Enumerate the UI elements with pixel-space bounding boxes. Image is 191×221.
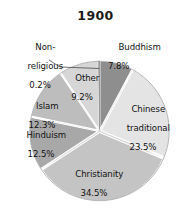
slice-value-chinese-traditional: 23.5% xyxy=(112,143,174,153)
slice-value-buddhism: 7.8% xyxy=(108,62,170,72)
slice-label-buddhism-text: Buddhism xyxy=(119,42,161,52)
slice-label-islam-text: Islam xyxy=(36,101,59,111)
slice-label-christianity-text: Christianity xyxy=(75,169,123,179)
slice-label-hinduism-text: Hinduism xyxy=(26,130,66,140)
pie-chart: 1900 Non- religious 0.2% Buddhism 7.8% O… xyxy=(0,0,191,221)
slice-value-other: 9.2% xyxy=(60,93,104,103)
slice-label-buddhism: Buddhism 7.8% xyxy=(108,33,170,91)
slice-label-other-text: Other xyxy=(75,73,99,83)
slice-label-other: Other 9.2% xyxy=(60,64,104,122)
slice-value-christianity: 34.5% xyxy=(56,189,132,199)
slice-label-christianity: Christianity 34.5% xyxy=(56,160,132,218)
slice-label-chinese-traditional-line2: traditional xyxy=(127,123,170,133)
slice-value-hinduism: 12.5% xyxy=(10,150,72,160)
slice-label-chinese-traditional-line1: Chinese xyxy=(131,104,165,114)
slice-label-non-religious-line1: Non- xyxy=(35,42,55,52)
slice-label-non-religious-line2: religious xyxy=(28,61,64,71)
